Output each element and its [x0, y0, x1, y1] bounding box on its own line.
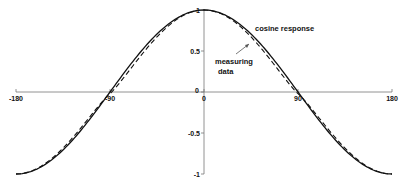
x-tick-label: 180 — [386, 95, 398, 102]
measuring-data-label: measuring — [215, 57, 253, 66]
y-tick-label: 0.5 — [190, 48, 200, 55]
cosine-response-chart: -180-90090180 10.5-0.5-10 cosine respons… — [0, 0, 404, 186]
x-tick-label: -180 — [9, 95, 23, 102]
x-ticks: -180-90090180 — [9, 89, 398, 102]
annotations: cosine responsemeasuringdata — [215, 24, 314, 76]
y-tick-label: -0.5 — [188, 130, 200, 137]
measuring-data-label: data — [218, 67, 234, 76]
y-tick-label: 0 — [195, 87, 199, 94]
arrow-head-icon — [245, 44, 249, 48]
x-tick-label: 0 — [202, 95, 206, 102]
cosine-response-label: cosine response — [255, 24, 314, 33]
y-tick-label: -1 — [194, 171, 200, 178]
